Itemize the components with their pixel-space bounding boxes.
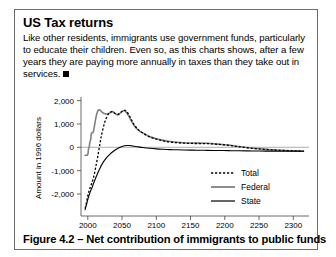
x-tick-label: 2000 xyxy=(79,221,97,230)
figure-caption: Figure 4.2 – Net contribution of immigra… xyxy=(23,233,326,245)
y-tick-label: -2,000 xyxy=(51,190,74,199)
y-tick-labels: 2,000 1,000 0 -1,000 -2,000 xyxy=(51,97,74,199)
series-group xyxy=(85,110,303,210)
figure-body-text: Like other residents, immigrants use gov… xyxy=(23,32,313,80)
y-tick-label: 1,000 xyxy=(54,120,75,129)
x-tick-label: 2250 xyxy=(250,221,268,230)
legend-label-state: State xyxy=(241,196,261,206)
figure-title: US Tax returns xyxy=(23,15,113,30)
figure-page: US Tax returns Like other residents, imm… xyxy=(0,0,336,257)
x-tick-label: 2300 xyxy=(284,221,302,230)
y-tick-label: 2,000 xyxy=(54,97,75,106)
y-tick-label: 0 xyxy=(70,143,75,152)
y-tick-label: -1,000 xyxy=(51,167,74,176)
series-line-state xyxy=(85,145,303,209)
chart-legend: Total Federal State xyxy=(211,168,270,206)
x-tick-labels: 2000 2050 2100 2150 2200 2250 2300 xyxy=(79,221,303,230)
x-tick-label: 2050 xyxy=(113,221,131,230)
legend-label-total: Total xyxy=(241,168,259,178)
x-tick-label: 2100 xyxy=(147,221,165,230)
x-axis-title: Year xyxy=(183,231,199,233)
series-line-total xyxy=(85,110,303,208)
legend-label-federal: Federal xyxy=(241,182,270,192)
chart: 2,000 1,000 0 -1,000 -2,000 xyxy=(23,80,315,232)
source-note-anchor: Smith and Edmonston (1997) xyxy=(6,255,7,256)
chart-svg: 2,000 1,000 0 -1,000 -2,000 xyxy=(23,80,315,232)
figure-box: US Tax returns Like other residents, imm… xyxy=(14,9,318,250)
y-tick-marks xyxy=(77,101,81,194)
y-axis-title: Amount in 1996 dollars xyxy=(34,117,43,199)
square-endmark-icon xyxy=(63,71,69,77)
x-tick-marks xyxy=(88,216,293,220)
x-tick-label: 2150 xyxy=(182,221,200,230)
x-tick-label: 2200 xyxy=(216,221,234,230)
